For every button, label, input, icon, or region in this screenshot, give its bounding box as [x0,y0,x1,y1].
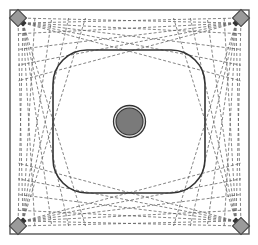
center-target [114,106,146,138]
diagram-canvas [0,0,258,245]
target-core [116,108,143,135]
sensor-coverage-diagram [0,0,258,245]
